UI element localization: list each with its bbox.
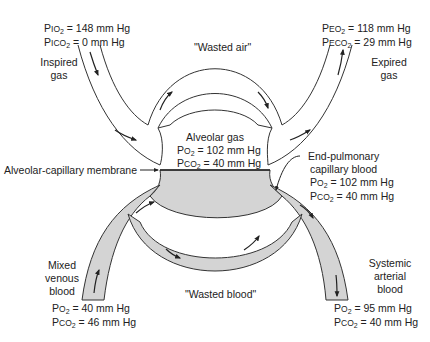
- inspired-airway: [78, 45, 160, 165]
- inspired-pco2-label: PICO2 = 0 mm Hg: [44, 36, 125, 52]
- end-pulmonary-pointer: [276, 156, 300, 190]
- end-pulmonary-pco2-label: PCO2 = 40 mm Hg: [310, 190, 394, 206]
- expired-gas-label: Expiredgas: [367, 56, 411, 82]
- inspired-gas-label: Inspiredgas: [37, 56, 81, 82]
- wasted-air-label: "Wasted air": [194, 41, 251, 54]
- wasted-blood-label: "Wasted blood": [185, 288, 256, 301]
- alveolar-pco2-label: PCO2 = 40 mm Hg: [177, 157, 261, 173]
- membrane-label: Alveolar-capillary membrane: [4, 164, 137, 177]
- expired-airway: [268, 45, 352, 165]
- blood-vessels: [82, 170, 348, 300]
- systemic-arterial-label: Systemicarterialblood: [365, 257, 415, 296]
- expired-pco2-label: PECO2 = 29 mm Hg: [322, 36, 412, 52]
- alveolar-gas-title: Alveolar gas: [175, 131, 255, 144]
- wasted-blood-shunt: [128, 214, 302, 271]
- alveolus: [158, 110, 272, 128]
- end-pulmonary-label: End-pulmonarycapillary blood: [308, 150, 379, 176]
- mixed-venous-pco2-label: PCO2 = 46 mm Hg: [52, 316, 136, 332]
- systemic-arterial-pco2-label: PCO2 = 40 mm Hg: [334, 316, 418, 332]
- pulmonary-capillary: [150, 170, 282, 218]
- mixed-venous-label: Mixedvenousblood: [40, 259, 84, 298]
